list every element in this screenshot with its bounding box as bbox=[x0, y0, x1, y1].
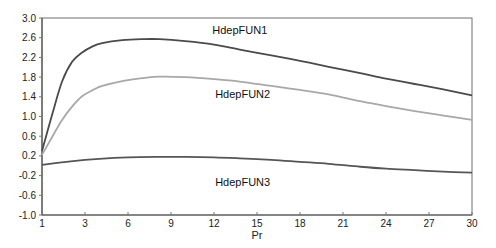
y-tick-label: 2.2 bbox=[22, 52, 36, 63]
y-tick-label: -0.2 bbox=[19, 170, 37, 181]
series-label-hdepfun3: HdepFUN3 bbox=[215, 176, 270, 188]
y-tick-label: 0.2 bbox=[22, 150, 36, 161]
x-axis-title: Pr bbox=[252, 229, 263, 241]
x-tick-label: 27 bbox=[423, 218, 435, 229]
line-chart: 3.02.62.21.81.41.00.60.2-0.2-0.6-1.0 136… bbox=[0, 0, 496, 248]
x-tick-label: 6 bbox=[125, 218, 131, 229]
x-tick-label: 24 bbox=[380, 218, 392, 229]
y-tick-label: 0.6 bbox=[22, 131, 36, 142]
x-tick-label: 3 bbox=[82, 218, 88, 229]
y-tick-label: -0.6 bbox=[19, 190, 37, 201]
x-tick-label: 1 bbox=[39, 218, 45, 229]
y-tick-label: 3.0 bbox=[22, 13, 36, 24]
x-tick-label: 30 bbox=[466, 218, 478, 229]
series-label-hdepfun2: HdepFUN2 bbox=[215, 88, 270, 100]
series-line-hdepfun3 bbox=[42, 157, 472, 173]
y-tick-label: 2.6 bbox=[22, 32, 36, 43]
series-label-hdepfun1: HdepFUN1 bbox=[212, 24, 267, 36]
y-tick-label: 1.0 bbox=[22, 111, 36, 122]
x-tick-label: 21 bbox=[337, 218, 349, 229]
y-tick-label: -1.0 bbox=[19, 210, 37, 221]
y-tick-label: 1.8 bbox=[22, 72, 36, 83]
x-tick-label: 9 bbox=[168, 218, 174, 229]
x-tick-label: 12 bbox=[208, 218, 220, 229]
y-tick-label: 1.4 bbox=[22, 91, 36, 102]
x-tick-label: 18 bbox=[294, 218, 306, 229]
x-tick-label: 15 bbox=[251, 218, 263, 229]
